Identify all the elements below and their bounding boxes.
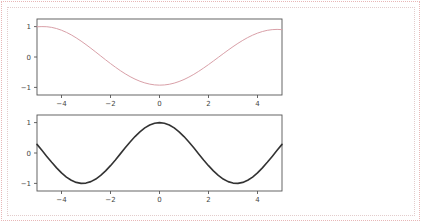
- y-tick-label: 1: [27, 119, 31, 127]
- y-tick-label: 0: [27, 150, 31, 158]
- data-line-bottom: [37, 123, 282, 184]
- x-tick-label: −2: [105, 196, 115, 204]
- y-tick-label: −1: [21, 84, 31, 92]
- x-tick-label: 0: [157, 100, 161, 108]
- x-tick-label: −2: [105, 100, 115, 108]
- data-line-top: [37, 27, 282, 86]
- x-tick-label: 4: [255, 100, 260, 108]
- y-tick-label: 0: [27, 54, 31, 62]
- matplotlib-figure: −4−2024−101 −4−2024−101: [0, 0, 422, 223]
- x-tick-label: 4: [255, 196, 260, 204]
- x-tick-label: −4: [56, 100, 67, 108]
- figure-page: −4−2024−101 −4−2024−101: [0, 0, 422, 223]
- axes-top-subplot: −4−2024−101: [21, 19, 282, 108]
- x-tick-label: 2: [206, 100, 210, 108]
- axes-frame: [37, 19, 282, 95]
- axes-frame: [37, 115, 282, 191]
- axes-bottom-subplot: −4−2024−101: [21, 115, 282, 204]
- y-tick-label: −1: [21, 180, 31, 188]
- y-tick-label: 1: [27, 23, 31, 31]
- x-tick-label: 0: [157, 196, 161, 204]
- x-tick-label: −4: [56, 196, 67, 204]
- x-tick-label: 2: [206, 196, 210, 204]
